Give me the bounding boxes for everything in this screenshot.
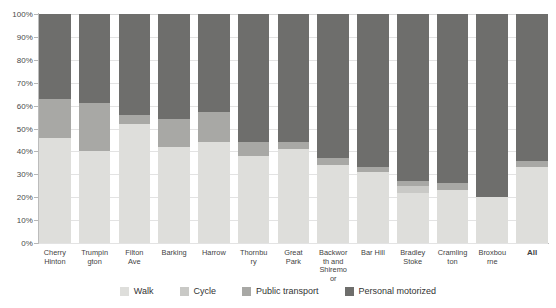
bar-segment-public-transport[interactable] (158, 119, 190, 146)
bar-segment-walk[interactable] (119, 124, 151, 243)
bar-segment-personal-motorized[interactable] (198, 14, 230, 112)
bar-segment-personal-motorized[interactable] (317, 14, 349, 158)
bar-segment-public-transport[interactable] (119, 115, 151, 124)
x-axis-category-labels: Cherry HintonTrumpingtonFilton AveBarkin… (39, 249, 548, 283)
bar-segment-personal-motorized[interactable] (476, 14, 508, 197)
x-axis-category-label: Broxbourne (476, 249, 508, 283)
x-axis-category-label: Great Park (278, 249, 310, 283)
bar-segment-walk[interactable] (79, 151, 111, 243)
bar-segment-personal-motorized[interactable] (238, 14, 270, 142)
bar-column[interactable] (437, 14, 469, 243)
bar-group (39, 14, 548, 243)
bar-segment-personal-motorized[interactable] (357, 14, 389, 167)
legend-swatch-icon (120, 287, 129, 296)
y-axis-tick-mark (34, 37, 38, 38)
x-axis-category-label: Filton Ave (119, 249, 151, 283)
y-axis-tick-mark (34, 220, 38, 221)
bar-column[interactable] (278, 14, 310, 243)
y-axis-tick-mark (34, 83, 38, 84)
bar-segment-personal-motorized[interactable] (119, 14, 151, 115)
bar-column[interactable] (397, 14, 429, 243)
bar-segment-public-transport[interactable] (79, 103, 111, 151)
bar-column[interactable] (357, 14, 389, 243)
x-axis-category-label: Harrow (198, 249, 230, 283)
legend-item[interactable]: Public transport (242, 286, 319, 296)
x-axis-category-label: Cramlington (437, 249, 469, 283)
legend-label: Cycle (194, 286, 217, 296)
bar-segment-public-transport[interactable] (516, 161, 548, 168)
bar-segment-public-transport[interactable] (238, 142, 270, 156)
bar-segment-personal-motorized[interactable] (39, 14, 71, 99)
bar-segment-public-transport[interactable] (198, 112, 230, 142)
y-axis-tick-mark (34, 243, 38, 244)
bar-segment-personal-motorized[interactable] (79, 14, 111, 103)
bar-segment-personal-motorized[interactable] (158, 14, 190, 119)
y-axis-tick-label: 90% (0, 32, 33, 41)
legend-swatch-icon (242, 287, 251, 296)
bar-segment-walk[interactable] (397, 193, 429, 243)
bar-segment-public-transport[interactable] (39, 99, 71, 138)
bar-column[interactable] (158, 14, 190, 243)
bar-segment-walk[interactable] (516, 167, 548, 243)
y-axis-tick-mark (34, 197, 38, 198)
y-axis-tick-label: 50% (0, 124, 33, 133)
bar-column[interactable] (516, 14, 548, 243)
bar-segment-walk[interactable] (278, 149, 310, 243)
x-axis-category-label: Barking (158, 249, 190, 283)
y-axis-tick-label: 40% (0, 147, 33, 156)
y-axis-tick-label: 10% (0, 216, 33, 225)
legend-label: Public transport (256, 286, 319, 296)
legend-item[interactable]: Cycle (180, 286, 217, 296)
y-axis-tick-label: 30% (0, 170, 33, 179)
bar-segment-personal-motorized[interactable] (516, 14, 548, 161)
legend-item[interactable]: Personal motorized (345, 286, 437, 296)
bar-segment-personal-motorized[interactable] (397, 14, 429, 181)
gridline (39, 243, 548, 244)
bar-column[interactable] (119, 14, 151, 243)
bar-segment-public-transport[interactable] (437, 183, 469, 190)
bar-segment-walk[interactable] (198, 142, 230, 243)
bar-segment-walk[interactable] (158, 147, 190, 243)
y-axis-tick-label: 60% (0, 101, 33, 110)
y-axis-tick-mark (34, 129, 38, 130)
y-axis-tick-mark (34, 151, 38, 152)
legend-label: Walk (134, 286, 154, 296)
bar-segment-public-transport[interactable] (278, 142, 310, 149)
x-axis-category-label: All (516, 249, 548, 283)
x-axis-category-label: Trumpington (79, 249, 111, 283)
legend-item[interactable]: Walk (120, 286, 154, 296)
x-axis-category-label: Backworth and Shiremoor (317, 249, 349, 283)
x-axis-category-label: Thornbury (238, 249, 270, 283)
bar-column[interactable] (476, 14, 508, 243)
y-axis-tick-mark (34, 106, 38, 107)
bar-column[interactable] (238, 14, 270, 243)
bar-segment-walk[interactable] (357, 172, 389, 243)
stacked-bar-chart: 100%90%80%70%60%50%40%30%20%10%0% Cherry… (0, 0, 556, 308)
y-axis-tick-label: 100% (0, 10, 33, 19)
legend-swatch-icon (180, 287, 189, 296)
legend-label: Personal motorized (359, 286, 437, 296)
bar-column[interactable] (39, 14, 71, 243)
bar-column[interactable] (198, 14, 230, 243)
bar-segment-personal-motorized[interactable] (437, 14, 469, 183)
bar-segment-public-transport[interactable] (317, 158, 349, 165)
bar-segment-personal-motorized[interactable] (278, 14, 310, 142)
bar-column[interactable] (317, 14, 349, 243)
bar-segment-walk[interactable] (437, 190, 469, 243)
bar-column[interactable] (79, 14, 111, 243)
y-axis-tick-label: 0% (0, 239, 33, 248)
bar-segment-walk[interactable] (238, 156, 270, 243)
bar-segment-walk[interactable] (317, 165, 349, 243)
chart-legend: WalkCyclePublic transportPersonal motori… (0, 286, 556, 296)
x-axis-category-label: Cherry Hinton (39, 249, 71, 283)
bar-segment-walk[interactable] (476, 197, 508, 243)
y-axis-tick-label: 20% (0, 193, 33, 202)
y-axis-tick-label: 80% (0, 55, 33, 64)
bar-segment-cycle[interactable] (397, 186, 429, 193)
x-axis-category-label: Bar Hill (357, 249, 389, 283)
x-axis-category-label: Bradley Stoke (397, 249, 429, 283)
bar-segment-walk[interactable] (39, 138, 71, 243)
y-axis-tick-mark (34, 14, 38, 15)
plot-area (39, 14, 548, 243)
y-axis-tick-mark (34, 174, 38, 175)
